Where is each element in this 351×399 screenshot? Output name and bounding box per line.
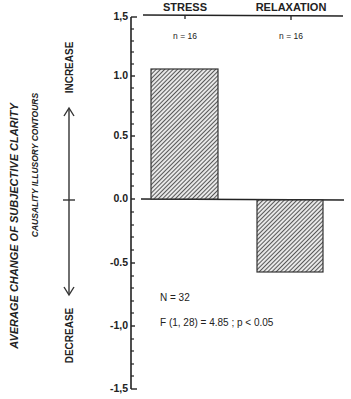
y-axis-title: AVERAGE CHANGE OF SUBJECTIVE CLARITY <box>8 66 20 386</box>
bar-relaxation <box>257 200 323 272</box>
y-tick-labels: 1,5 1.0 0.5 0.0 -0.5 -1,0 -1,5 <box>100 0 128 399</box>
direction-arrow-icon <box>63 108 75 295</box>
category-label-relaxation: RELAXATION <box>250 1 332 13</box>
direction-label-increase: INCREASE <box>64 28 75 108</box>
y-tick-label: -1,0 <box>110 319 128 331</box>
category-axis-line <box>143 15 343 16</box>
annotation-f-statistic: F (1, 28) = 4.85 ; p < 0.05 <box>160 317 273 328</box>
y-axis-major-ticks <box>131 17 137 389</box>
direction-label-decrease: DECREASE <box>64 296 75 376</box>
annotation-total-n: N = 32 <box>160 292 190 303</box>
y-tick-label: 0.0 <box>113 192 128 204</box>
group-n-stress: n = 16 <box>155 31 215 41</box>
y-axis-subtitle: CAUSALITY ILLUSORY CONTOURS <box>30 55 40 275</box>
y-tick-label: 0.5 <box>113 129 128 141</box>
y-tick-label: 1.0 <box>113 69 128 81</box>
bar-chart <box>0 0 351 399</box>
category-label-stress: STRESS <box>145 1 225 13</box>
y-tick-label: -1,5 <box>110 382 128 394</box>
y-tick-label: -0.5 <box>110 256 128 268</box>
group-n-relaxation: n = 16 <box>261 31 321 41</box>
bar-stress <box>151 69 218 199</box>
y-tick-label: 1,5 <box>113 10 128 22</box>
